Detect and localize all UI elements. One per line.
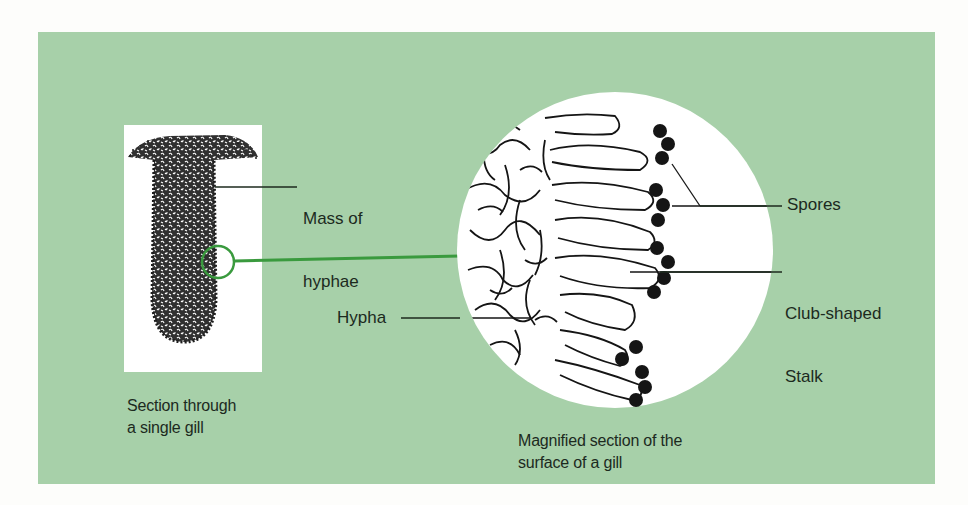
label-spores: Spores <box>787 194 841 215</box>
gill-section-illustration <box>128 135 258 342</box>
label-hypha: Hypha <box>337 307 386 328</box>
magnified-surface-illustration <box>425 92 780 408</box>
caption-magnified-section: Magnified section of the surface of a gi… <box>518 430 682 474</box>
label-mass-of-hyphae-line2: hyphae <box>303 271 363 292</box>
label-mass-of-hyphae: Mass of hyphae <box>303 166 363 313</box>
label-club-shaped-stalk: Club-shaped Stalk <box>785 261 881 408</box>
caption-gill-line2: a single gill <box>127 417 236 439</box>
label-club-shaped-line2: Stalk <box>785 366 881 387</box>
caption-magnified-line2: surface of a gill <box>518 452 682 474</box>
caption-magnified-line1: Magnified section of the <box>518 430 682 452</box>
caption-gill-line1: Section through <box>127 395 236 417</box>
label-club-shaped-line1: Club-shaped <box>785 303 881 324</box>
caption-gill-section: Section through a single gill <box>127 395 236 439</box>
label-mass-of-hyphae-line1: Mass of <box>303 208 363 229</box>
